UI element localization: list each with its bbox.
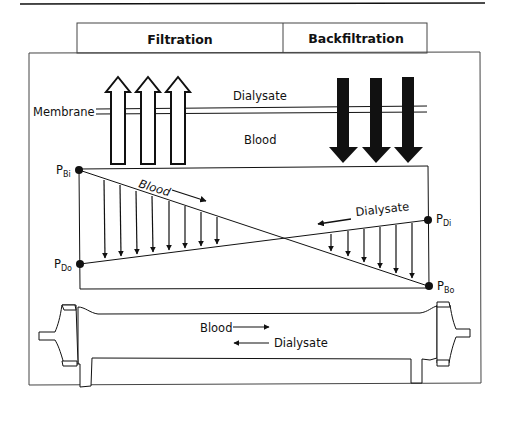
pbo-label: PBo [437, 279, 454, 295]
blood-flow-label: Blood [137, 176, 173, 199]
hemodialysis-filtration-diagram: Filtration Backfiltration Membrane Dialy… [0, 0, 505, 427]
membrane-label: Membrane [33, 105, 95, 119]
filtration-header: Filtration [147, 32, 212, 47]
up-arrow-icon [136, 77, 160, 164]
backfiltration-header: Backfiltration [308, 31, 404, 46]
dialysate-flow-arrow [318, 219, 351, 224]
dialyzer-blood-label: Blood [200, 321, 232, 335]
header-tabs: Filtration Backfiltration [77, 23, 427, 53]
top-rule [20, 3, 485, 4]
dialyzer-icon [39, 302, 470, 387]
filtration-arrows [106, 77, 190, 164]
pressure-point-pbi [75, 166, 83, 174]
backfiltration-arrows [329, 77, 423, 163]
pressure-panel [79, 166, 429, 289]
pdo-label: PDo [54, 257, 72, 273]
pressure-point-pdo [76, 260, 84, 268]
dialysate-flow-label: Dialysate [355, 199, 410, 219]
backfiltration-flux-arrows [331, 223, 412, 278]
up-arrow-icon [106, 77, 130, 164]
dialyzer-dialysate-label: Dialysate [274, 336, 328, 350]
up-arrow-icon [166, 77, 190, 164]
dialysate-label-top: Dialysate [233, 89, 287, 103]
down-arrow-icon [394, 77, 423, 163]
blood-label-top: Blood [244, 133, 276, 147]
down-arrow-icon [362, 78, 391, 163]
pbi-label: PBi [56, 163, 71, 179]
down-arrow-icon [329, 78, 358, 163]
pressure-point-pdi [424, 216, 432, 224]
blood-flow-arrow [172, 190, 206, 201]
pdi-label: PDi [436, 212, 451, 228]
pressure-point-pbo [425, 282, 433, 290]
